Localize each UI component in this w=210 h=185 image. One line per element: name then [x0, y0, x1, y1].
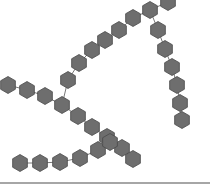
hexagon-unit [151, 22, 166, 39]
hexagon-unit [73, 150, 88, 167]
hexagon-unit [85, 119, 100, 136]
hexagon-unit [165, 59, 180, 76]
hexagon-unit [112, 22, 127, 39]
hexagon-unit [13, 155, 28, 172]
hexagon-unit [71, 108, 86, 125]
hexagon-unit [85, 42, 100, 59]
hexagon-unit [126, 151, 141, 168]
hexagon-unit [175, 112, 190, 129]
hexagon-unit [126, 10, 141, 27]
hexagon-unit [143, 2, 158, 19]
hexagon-unit [72, 55, 87, 72]
hexagon-unit [1, 77, 16, 94]
hexagon-unit [173, 95, 188, 112]
hexagon-unit [103, 134, 118, 151]
hexagon-unit [158, 41, 173, 58]
hexagon-unit [33, 155, 48, 172]
hexagon-chain-diagram [0, 0, 210, 185]
hexagon-units [1, 0, 190, 172]
hexagon-unit [161, 0, 176, 11]
hexagon-unit [53, 154, 68, 171]
hexagon-unit [61, 72, 76, 89]
hexagon-unit [38, 88, 53, 105]
hexagon-unit [98, 32, 113, 49]
hexagon-unit [170, 77, 185, 94]
hexagon-unit [20, 82, 35, 99]
hexagon-unit [55, 97, 70, 114]
